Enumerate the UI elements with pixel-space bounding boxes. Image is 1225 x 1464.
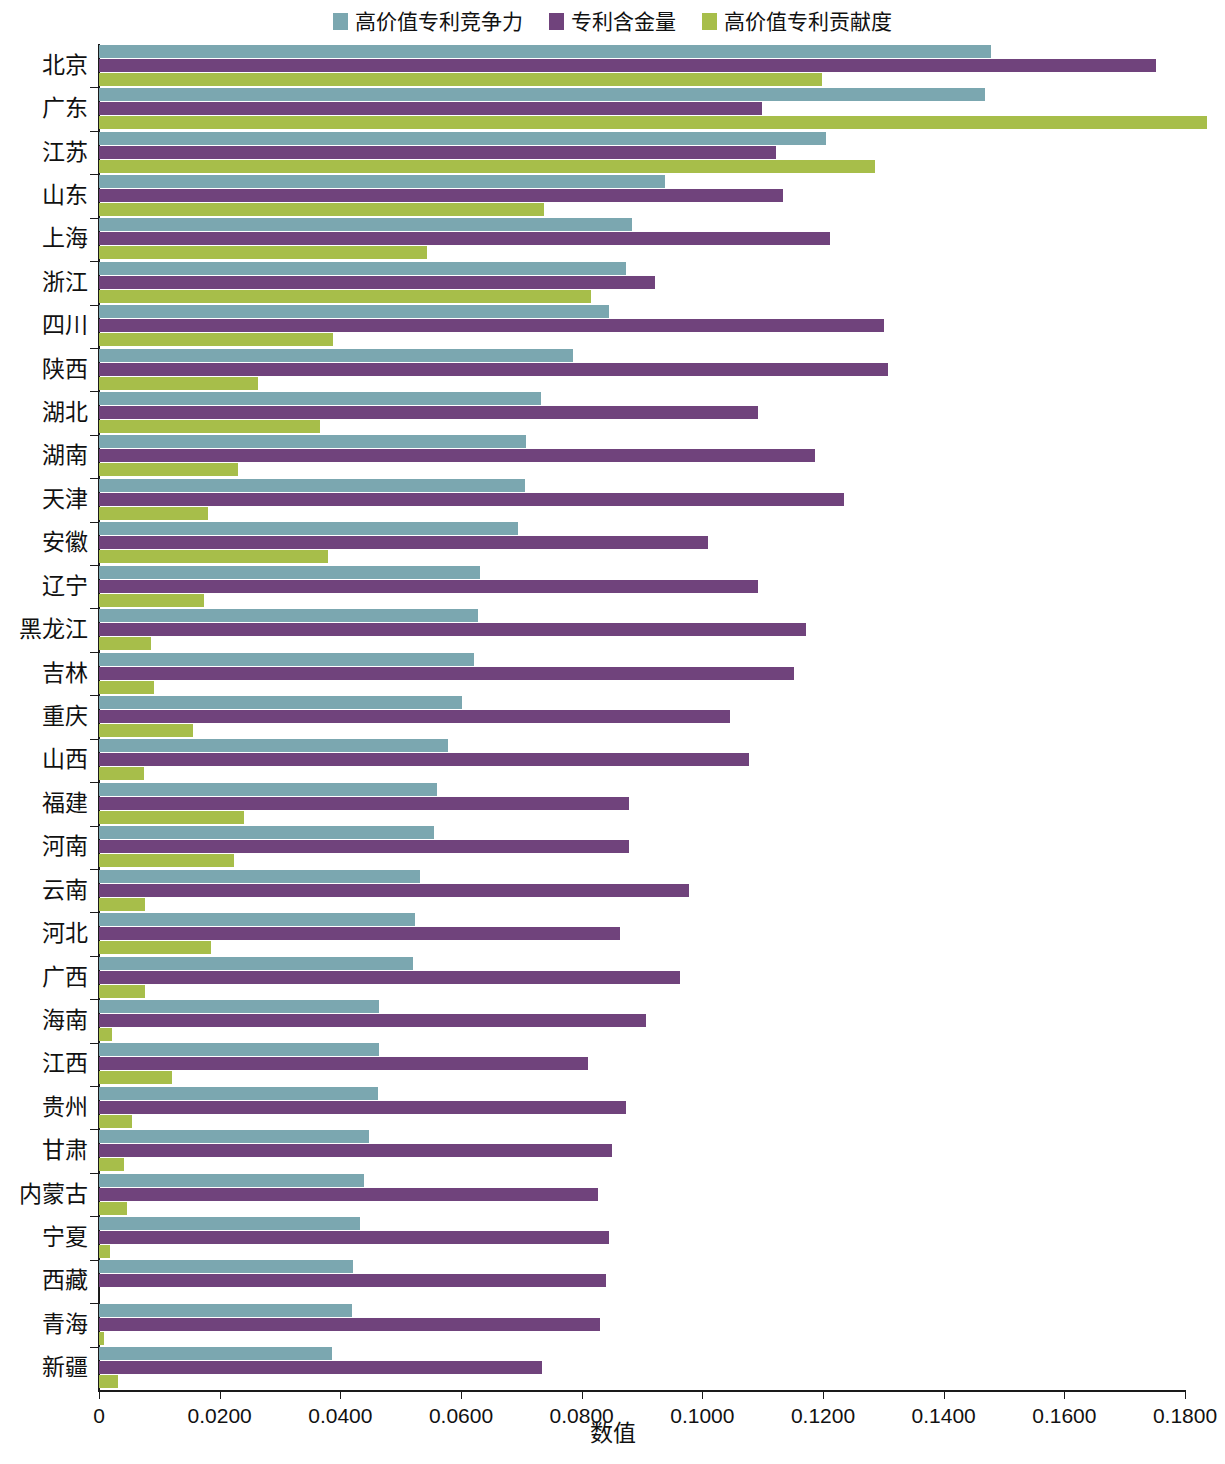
- bar-patent-value[interactable]: [99, 276, 655, 289]
- bar-patent-value[interactable]: [99, 146, 776, 159]
- bar-competitiveness[interactable]: [99, 305, 609, 318]
- bar-contribution[interactable]: [99, 550, 328, 563]
- bar-patent-value[interactable]: [99, 753, 749, 766]
- category-label: 甘肃: [42, 1139, 88, 1162]
- bar-contribution[interactable]: [99, 1202, 127, 1215]
- bar-patent-value[interactable]: [99, 59, 1156, 72]
- bar-patent-value[interactable]: [99, 710, 730, 723]
- bar-patent-value[interactable]: [99, 1188, 598, 1201]
- x-axis-tick: [1185, 1390, 1186, 1399]
- bar-competitiveness[interactable]: [99, 870, 420, 883]
- bar-competitiveness[interactable]: [99, 435, 526, 448]
- bar-competitiveness[interactable]: [99, 696, 462, 709]
- bar-competitiveness[interactable]: [99, 566, 480, 579]
- bar-contribution[interactable]: [99, 637, 151, 650]
- bar-competitiveness[interactable]: [99, 826, 434, 839]
- bar-contribution[interactable]: [99, 724, 193, 737]
- legend-item[interactable]: 高价值专利贡献度: [702, 11, 892, 32]
- bar-patent-value[interactable]: [99, 1014, 646, 1027]
- bar-patent-value[interactable]: [99, 363, 888, 376]
- bar-contribution[interactable]: [99, 854, 234, 867]
- bar-contribution[interactable]: [99, 1071, 172, 1084]
- bar-patent-value[interactable]: [99, 1318, 600, 1331]
- bar-contribution[interactable]: [99, 985, 145, 998]
- bar-contribution[interactable]: [99, 898, 145, 911]
- bar-patent-value[interactable]: [99, 449, 815, 462]
- bar-competitiveness[interactable]: [99, 262, 626, 275]
- bar-competitiveness[interactable]: [99, 392, 541, 405]
- bar-contribution[interactable]: [99, 203, 544, 216]
- bar-patent-value[interactable]: [99, 623, 806, 636]
- bar-competitiveness[interactable]: [99, 1347, 332, 1360]
- bar-competitiveness[interactable]: [99, 1130, 369, 1143]
- bar-patent-value[interactable]: [99, 1361, 542, 1374]
- bar-patent-value[interactable]: [99, 1274, 606, 1287]
- bar-contribution[interactable]: [99, 333, 333, 346]
- bar-competitiveness[interactable]: [99, 1174, 364, 1187]
- bar-contribution[interactable]: [99, 1375, 118, 1388]
- bar-competitiveness[interactable]: [99, 1304, 352, 1317]
- y-axis-tick: [90, 1129, 99, 1130]
- bar-contribution[interactable]: [99, 1115, 132, 1128]
- bar-competitiveness[interactable]: [99, 45, 991, 58]
- bar-competitiveness[interactable]: [99, 913, 415, 926]
- bar-patent-value[interactable]: [99, 1231, 609, 1244]
- bar-competitiveness[interactable]: [99, 88, 985, 101]
- bar-patent-value[interactable]: [99, 971, 680, 984]
- bar-contribution[interactable]: [99, 420, 320, 433]
- bar-competitiveness[interactable]: [99, 609, 478, 622]
- bar-contribution[interactable]: [99, 463, 238, 476]
- bar-contribution[interactable]: [99, 507, 208, 520]
- bar-patent-value[interactable]: [99, 232, 830, 245]
- bar-competitiveness[interactable]: [99, 1260, 353, 1273]
- bar-competitiveness[interactable]: [99, 739, 448, 752]
- bar-competitiveness[interactable]: [99, 522, 518, 535]
- bar-contribution[interactable]: [99, 73, 822, 86]
- bar-competitiveness[interactable]: [99, 653, 474, 666]
- bar-competitiveness[interactable]: [99, 1217, 360, 1230]
- bar-patent-value[interactable]: [99, 580, 758, 593]
- bar-patent-value[interactable]: [99, 1144, 612, 1157]
- bar-patent-value[interactable]: [99, 493, 844, 506]
- bar-patent-value[interactable]: [99, 406, 758, 419]
- bar-contribution[interactable]: [99, 811, 244, 824]
- bar-contribution[interactable]: [99, 290, 591, 303]
- bar-contribution[interactable]: [99, 160, 875, 173]
- bar-contribution[interactable]: [99, 1028, 112, 1041]
- bar-patent-value[interactable]: [99, 102, 762, 115]
- bar-competitiveness[interactable]: [99, 218, 632, 231]
- y-axis-tick: [90, 131, 99, 132]
- bar-contribution[interactable]: [99, 681, 154, 694]
- legend-item[interactable]: 高价值专利竞争力: [333, 11, 523, 32]
- bar-contribution[interactable]: [99, 1332, 104, 1345]
- bar-patent-value[interactable]: [99, 1101, 626, 1114]
- bar-competitiveness[interactable]: [99, 479, 525, 492]
- bar-competitiveness[interactable]: [99, 349, 573, 362]
- bar-contribution[interactable]: [99, 377, 258, 390]
- bar-contribution[interactable]: [99, 594, 204, 607]
- bar-competitiveness[interactable]: [99, 1000, 379, 1013]
- bar-competitiveness[interactable]: [99, 957, 413, 970]
- x-axis-tick: [220, 1390, 221, 1399]
- bar-competitiveness[interactable]: [99, 783, 437, 796]
- bar-competitiveness[interactable]: [99, 1043, 379, 1056]
- bar-contribution[interactable]: [99, 941, 211, 954]
- bar-contribution[interactable]: [99, 1158, 124, 1171]
- bar-patent-value[interactable]: [99, 884, 689, 897]
- bar-contribution[interactable]: [99, 116, 1207, 129]
- bar-contribution[interactable]: [99, 767, 144, 780]
- bar-patent-value[interactable]: [99, 189, 783, 202]
- bar-patent-value[interactable]: [99, 840, 629, 853]
- bar-contribution[interactable]: [99, 1245, 110, 1258]
- bar-patent-value[interactable]: [99, 536, 708, 549]
- bar-competitiveness[interactable]: [99, 1087, 378, 1100]
- bar-patent-value[interactable]: [99, 319, 884, 332]
- bar-contribution[interactable]: [99, 246, 427, 259]
- legend-item[interactable]: 专利含金量: [549, 11, 676, 32]
- bar-competitiveness[interactable]: [99, 175, 665, 188]
- bar-patent-value[interactable]: [99, 797, 629, 810]
- bar-competitiveness[interactable]: [99, 132, 826, 145]
- bar-patent-value[interactable]: [99, 667, 794, 680]
- bar-patent-value[interactable]: [99, 1057, 588, 1070]
- bar-patent-value[interactable]: [99, 927, 620, 940]
